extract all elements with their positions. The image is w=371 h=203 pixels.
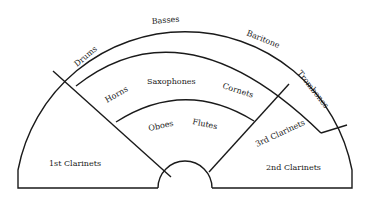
label-oboes: Oboes bbox=[148, 119, 175, 133]
label-horns: Horns bbox=[104, 85, 130, 105]
label-saxophones: Saxophones bbox=[147, 77, 196, 86]
label-cornets: Cornets bbox=[221, 81, 254, 99]
trombones-divider bbox=[321, 125, 347, 133]
label-drums: Drums bbox=[73, 44, 100, 68]
band-seating-diagram: Drums Basses Baritone Trombones Horns Sa… bbox=[0, 0, 371, 203]
label-baritone: Baritone bbox=[245, 29, 281, 51]
podium-semicircle bbox=[158, 161, 212, 188]
label-third-clarinets: 3rd Clarinets bbox=[254, 118, 306, 149]
label-second-clarinets: 2nd Clarinets bbox=[266, 163, 321, 172]
inner-row-arc bbox=[116, 100, 254, 122]
label-flutes: Flutes bbox=[192, 117, 219, 131]
label-basses: Basses bbox=[151, 15, 179, 26]
label-first-clarinets: 1st Clarinets bbox=[49, 159, 101, 168]
label-trombones: Trombones bbox=[295, 69, 330, 110]
